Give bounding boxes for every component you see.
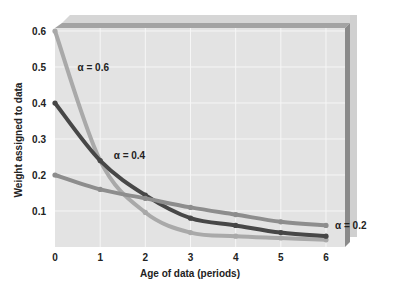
data-point — [188, 205, 193, 210]
x-tick-label: 1 — [97, 252, 103, 263]
data-point — [278, 235, 283, 240]
data-point — [98, 158, 103, 163]
data-point — [323, 223, 328, 228]
data-point — [233, 223, 238, 228]
frame-right — [345, 23, 350, 247]
data-point — [278, 230, 283, 235]
data-point — [233, 234, 238, 239]
y-tick-label: 0.6 — [32, 26, 46, 37]
x-axis-label: Age of data (periods) — [140, 268, 240, 279]
data-point — [143, 196, 148, 201]
frame-top-shadow — [62, 15, 355, 23]
y-axis-label: Weight assigned to data — [13, 82, 24, 197]
line-chart: 0.10.20.30.40.50.6 0123456 α = 0.6α = 0.… — [0, 0, 405, 285]
series-label: α = 0.4 — [114, 150, 146, 161]
series-label: α = 0.2 — [335, 220, 367, 231]
x-tick-label: 4 — [233, 252, 239, 263]
data-point — [278, 219, 283, 224]
y-tick-label: 0.2 — [32, 170, 46, 181]
x-tick-label: 5 — [278, 252, 284, 263]
data-point — [188, 230, 193, 235]
x-axis-ticks: 0123456 — [52, 252, 329, 263]
x-tick-label: 2 — [143, 252, 149, 263]
y-tick-label: 0.1 — [32, 206, 46, 217]
data-point — [52, 28, 57, 33]
data-point — [233, 212, 238, 217]
x-tick-label: 3 — [188, 252, 194, 263]
data-point — [52, 100, 57, 105]
series-label: α = 0.6 — [78, 62, 110, 73]
data-point — [98, 187, 103, 192]
y-axis-ticks: 0.10.20.30.40.50.6 — [32, 26, 46, 217]
y-tick-label: 0.5 — [32, 62, 46, 73]
data-point — [52, 172, 57, 177]
x-tick-label: 6 — [323, 252, 329, 263]
plot-area — [55, 28, 345, 247]
y-tick-label: 0.4 — [32, 98, 46, 109]
frame-right-shadow — [350, 15, 357, 237]
frame-top — [55, 23, 350, 28]
x-tick-label: 0 — [52, 252, 58, 263]
data-point — [323, 234, 328, 239]
y-tick-label: 0.3 — [32, 134, 46, 145]
data-point — [188, 216, 193, 221]
data-point — [143, 210, 148, 215]
